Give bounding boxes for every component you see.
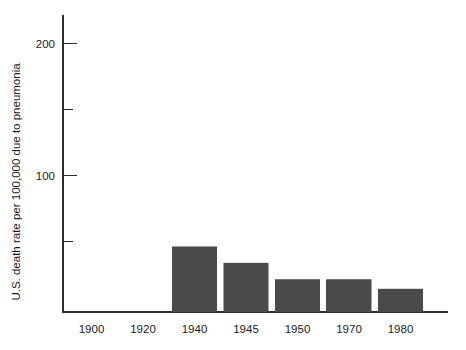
x-tick-label-1980: 1980 <box>388 323 414 335</box>
bar-1970[interactable] <box>326 280 371 312</box>
bar-chart-canvas: U.S. death rate per 100,000 due to pneum… <box>0 0 466 350</box>
bar-series <box>172 246 423 312</box>
y-axis-label: U.S. death rate per 100,000 due to pneum… <box>10 63 22 301</box>
y-axis-label-text: U.S. death rate per 100,000 due to pneum… <box>10 63 22 301</box>
x-tick-label-1900: 1900 <box>79 323 105 335</box>
x-axis-tick-labels: 1900 1920 1940 1945 1950 1970 1980 <box>79 323 414 335</box>
bar-1980[interactable] <box>378 289 423 312</box>
y-tick-label-100: 100 <box>36 170 55 182</box>
x-tick-label-1920: 1920 <box>130 323 156 335</box>
x-tick-label-1945: 1945 <box>233 323 259 335</box>
bar-1900[interactable] <box>172 246 217 312</box>
x-tick-label-1940: 1940 <box>182 323 208 335</box>
y-axis-tick-labels: 200 100 <box>36 38 55 182</box>
y-axis-ticks <box>63 44 78 242</box>
x-tick-label-1950: 1950 <box>285 323 311 335</box>
y-tick-label-200: 200 <box>36 38 55 50</box>
bar-1920[interactable] <box>224 263 269 312</box>
chart-figure: U.S. death rate per 100,000 due to pneum… <box>0 0 466 350</box>
x-tick-label-1970: 1970 <box>336 323 362 335</box>
bar-1940[interactable] <box>275 279 320 312</box>
